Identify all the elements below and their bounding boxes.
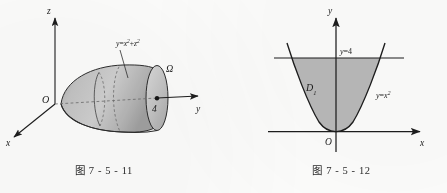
axis-z-label: z (46, 6, 51, 16)
textbook-figure-page: z x (0, 0, 447, 193)
axis-z: z (46, 6, 55, 104)
curve-label-y-x-squared: y=x2 (375, 90, 391, 100)
figure-7-5-12-caption: 图 7 - 5 - 12 (230, 162, 447, 177)
surface-equation-label: y=x2+z2 (115, 38, 140, 48)
origin-label: O (325, 137, 332, 147)
paraboloid-solid (61, 65, 168, 132)
axis-y-label: y (327, 6, 333, 16)
axis-x-label: x (5, 138, 11, 148)
figure-7-5-11-caption: 图 7 - 5 - 11 (0, 162, 216, 177)
axis-y-label: y (195, 104, 201, 114)
figure-7-5-12: x y y=4 D1 y=x2 O 图 7 - 5 - 12 (224, 0, 447, 193)
line-y4-label: y=4 (339, 47, 352, 56)
tick-label-4: 4 (152, 104, 157, 114)
figure-7-5-11-canvas: z x (0, 0, 224, 165)
figure-7-5-12-canvas: x y y=4 D1 y=x2 O (224, 0, 447, 165)
solid-omega-label: Ω (166, 63, 173, 74)
axis-x: x (268, 132, 425, 148)
axis-x: x (5, 104, 55, 148)
paraboloid-body (61, 65, 157, 132)
figure-7-5-11: z x (0, 0, 224, 193)
axis-x-label: x (419, 138, 425, 148)
origin-label: O (42, 94, 49, 105)
